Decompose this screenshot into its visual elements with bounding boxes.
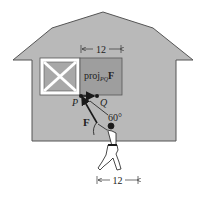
window	[40, 58, 80, 95]
angle-label: 60°	[108, 112, 122, 123]
point-q	[95, 94, 99, 98]
bottom-dimension-label: 12	[113, 175, 123, 186]
projection-diagram: 12 projPQF P Q 60° F	[0, 0, 207, 199]
point-q-label: Q	[100, 97, 108, 108]
top-dimension-label: 12	[96, 44, 106, 55]
force-label: F	[83, 116, 90, 128]
point-p-label: P	[71, 97, 78, 108]
projection-label: projPQF	[84, 70, 114, 82]
diagram-canvas: 12 projPQF P Q 60° F	[0, 0, 207, 199]
